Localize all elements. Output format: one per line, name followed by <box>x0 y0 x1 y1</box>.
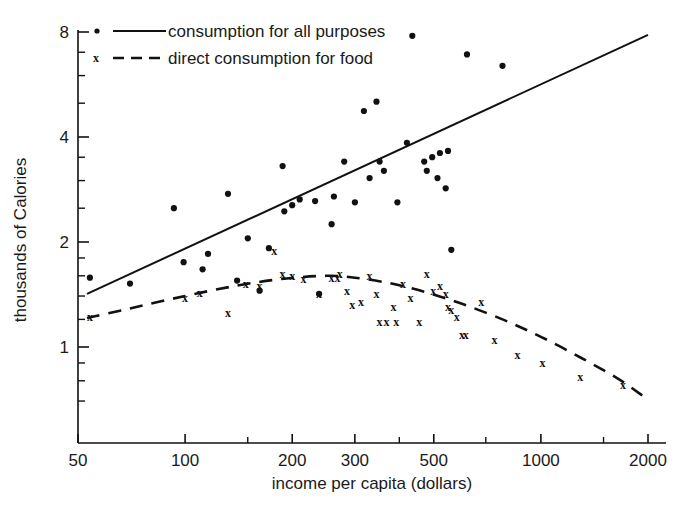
x-tick-label: 100 <box>171 451 199 470</box>
data-point-x: x <box>400 277 406 291</box>
data-point-dot <box>404 140 410 146</box>
data-point-dot <box>367 175 373 181</box>
x-tick-label: 1000 <box>522 451 560 470</box>
data-point-dot <box>329 221 335 227</box>
data-point-dot <box>373 99 379 105</box>
data-point-x: x <box>358 295 364 309</box>
data-point-dot <box>225 191 231 197</box>
data-point-dot <box>205 251 211 257</box>
chart-figure: 1248 5010020030050010002000 xxxxxxxxxxxx… <box>0 0 691 517</box>
data-point-x: x <box>408 291 414 305</box>
data-point-x: x <box>491 333 497 347</box>
data-point-x: x <box>539 356 545 370</box>
legend-label-direct-food: direct consumption for food <box>168 49 373 68</box>
data-point-dot <box>312 198 318 204</box>
data-points-direct-food: xxxxxxxxxxxxxxxxxxxxxxxxxxxxxxxxxxxxxxxx… <box>87 244 626 391</box>
data-point-dot <box>297 196 303 202</box>
data-points-all-purposes <box>87 33 506 297</box>
x-tick-label: 200 <box>278 451 306 470</box>
data-point-dot <box>434 175 440 181</box>
data-point-x: x <box>225 306 231 320</box>
data-point-x: x <box>316 287 322 301</box>
y-axis-ticks <box>78 32 89 401</box>
data-point-dot <box>200 266 206 272</box>
data-point-dot <box>381 168 387 174</box>
data-point-dot <box>424 168 430 174</box>
chart-legend: consumption for all purposes x direct co… <box>93 22 385 68</box>
data-point-x: x <box>620 378 626 392</box>
data-point-x: x <box>377 315 383 329</box>
data-point-dot <box>234 278 240 284</box>
data-point-x: x <box>443 287 449 301</box>
data-point-x: x <box>383 315 389 329</box>
data-point-x: x <box>182 291 188 305</box>
data-point-dot <box>394 199 400 205</box>
data-point-x: x <box>430 284 436 298</box>
data-point-dot <box>409 33 415 39</box>
trendline-all-purposes <box>87 35 648 294</box>
data-point-x: x <box>515 348 521 362</box>
data-point-dot <box>87 275 93 281</box>
data-point-dot <box>377 159 383 165</box>
data-point-dot <box>245 235 251 241</box>
data-point-x: x <box>416 315 422 329</box>
legend-dot-marker-icon <box>94 28 99 33</box>
data-point-dot <box>341 159 347 165</box>
data-point-dot <box>171 205 177 211</box>
data-point-x: x <box>300 272 306 286</box>
scatter-plot-canvas: 1248 5010020030050010002000 xxxxxxxxxxxx… <box>0 0 691 517</box>
data-point-x: x <box>337 267 343 281</box>
data-point-dot <box>421 159 427 165</box>
legend-label-all-purposes: consumption for all purposes <box>168 22 385 41</box>
data-point-dot <box>499 63 505 69</box>
data-point-x: x <box>349 298 355 312</box>
data-point-dot <box>445 148 451 154</box>
data-point-x: x <box>197 286 203 300</box>
y-axis-tick-labels: 1248 <box>60 23 69 357</box>
data-point-dot <box>448 247 454 253</box>
data-point-x: x <box>454 310 460 324</box>
y-axis-title: thousands of Calories <box>11 158 30 322</box>
data-point-dot <box>429 154 435 160</box>
y-tick-label: 1 <box>60 338 69 357</box>
data-point-dot <box>464 51 470 57</box>
x-tick-label: 300 <box>341 451 369 470</box>
data-point-x: x <box>393 315 399 329</box>
legend-x-marker-icon: x <box>93 51 99 65</box>
data-point-x: x <box>463 328 469 342</box>
data-point-dot <box>361 108 367 114</box>
data-point-dot <box>181 259 187 265</box>
x-axis-ticks <box>78 434 648 443</box>
data-point-x: x <box>424 267 430 281</box>
x-axis-title: income per capita (dollars) <box>272 474 472 493</box>
y-tick-label: 4 <box>60 128 69 147</box>
data-point-dot <box>443 185 449 191</box>
x-tick-label: 500 <box>420 451 448 470</box>
data-point-x: x <box>243 277 249 291</box>
trendline-direct-food <box>87 276 644 397</box>
data-point-x: x <box>478 295 484 309</box>
data-point-x: x <box>271 244 277 258</box>
data-point-x: x <box>367 269 373 283</box>
data-point-x: x <box>87 310 93 324</box>
data-point-x: x <box>390 300 396 314</box>
data-point-dot <box>352 199 358 205</box>
data-point-dot <box>331 193 337 199</box>
data-point-x: x <box>280 267 286 281</box>
data-point-x: x <box>344 284 350 298</box>
x-tick-label: 2000 <box>629 451 667 470</box>
data-point-x: x <box>577 370 583 384</box>
data-point-x: x <box>257 279 263 293</box>
x-tick-label: 50 <box>69 451 88 470</box>
y-tick-label: 8 <box>60 23 69 42</box>
data-point-dot <box>280 163 286 169</box>
data-point-x: x <box>289 269 295 283</box>
data-point-dot <box>281 208 287 214</box>
data-point-x: x <box>374 287 380 301</box>
data-point-dot <box>127 281 133 287</box>
data-point-dot <box>289 202 295 208</box>
y-tick-label: 2 <box>60 233 69 252</box>
x-axis-tick-labels: 5010020030050010002000 <box>69 451 667 470</box>
data-point-dot <box>437 150 443 156</box>
